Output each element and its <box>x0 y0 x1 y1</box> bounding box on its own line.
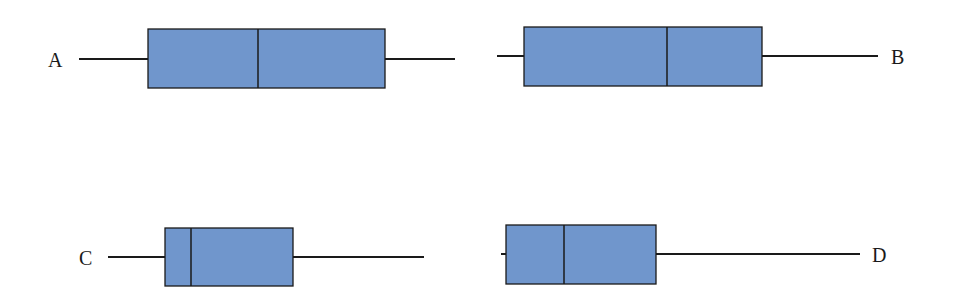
series-label: B <box>891 46 904 68</box>
iqr-box <box>524 27 762 86</box>
box-plot-b: B <box>497 27 904 86</box>
series-label: D <box>872 244 886 266</box>
iqr-box <box>148 29 385 88</box>
box-plot-d: D <box>501 225 886 284</box>
box-plot-chart: ABCD <box>0 0 957 292</box>
series-label: A <box>48 49 63 71</box>
box-plot-a: A <box>48 29 455 88</box>
iqr-box <box>165 228 293 286</box>
iqr-box <box>506 225 656 284</box>
series-label: C <box>79 247 92 269</box>
box-plot-c: C <box>79 228 424 286</box>
